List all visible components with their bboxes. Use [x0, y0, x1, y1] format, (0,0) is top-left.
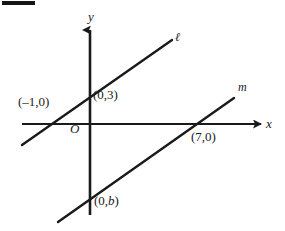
line-m-label: m [238, 81, 247, 93]
figure-canvas: y x O ℓ m (–1,0) (0,3) (7,0) (0,b) [0, 0, 285, 231]
coordinate-plane-svg [0, 0, 285, 231]
line-ell-label: ℓ [175, 31, 180, 43]
x-axis-label: x [266, 117, 272, 130]
origin-label: O [70, 122, 79, 135]
y-axis-label: y [88, 10, 94, 23]
point-label-0-b-suffix: ) [115, 193, 119, 208]
point-label-0-b-prefix: (0, [94, 193, 108, 208]
point-label-7-0: (7,0) [191, 130, 216, 143]
point-label-neg1-0: (–1,0) [18, 95, 49, 108]
point-label-0-b: (0,b) [94, 194, 119, 207]
line-m [58, 98, 234, 222]
point-label-0-3: (0,3) [93, 88, 118, 101]
